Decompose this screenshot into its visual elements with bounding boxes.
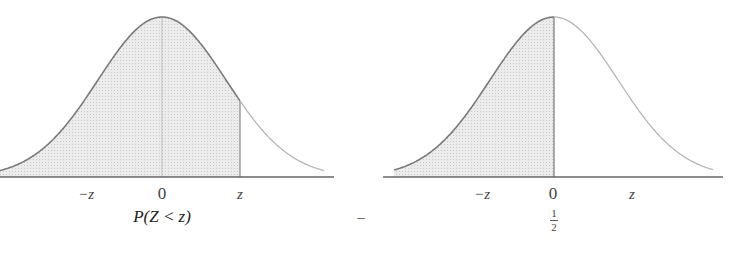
right-curve-unshaded-part [554,17,713,170]
left-tick-z: z [237,187,243,202]
right-tick-z: z [629,187,635,202]
normal-curves-figure [0,0,739,259]
left-normal-curve-panel [0,17,334,177]
right-normal-curve-panel [383,17,723,177]
left-caption-probability: P(Z < z) [133,208,191,225]
right-caption-one-half: 1 2 [550,208,558,233]
right-tick-neg-z: −z [474,187,490,202]
right-tick-zero: 0 [549,185,558,202]
minus-operator: − [356,211,365,227]
fraction-numerator: 1 [551,208,557,219]
fraction-denominator: 2 [551,222,557,233]
left-curve-unshaded-part [240,101,324,171]
right-shaded-area [394,17,554,177]
left-tick-zero: 0 [158,185,167,202]
left-tick-neg-z: −z [78,187,94,202]
